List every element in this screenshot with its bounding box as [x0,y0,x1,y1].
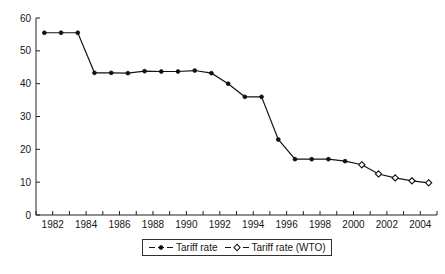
tariff-rate-line-chart: 0102030405060 19821984198619881990199219… [0,0,445,274]
series-lines [44,33,428,183]
x-tick-label: 1990 [175,219,198,230]
data-point-filled-circle [126,71,130,75]
data-point-open-diamond [409,178,415,184]
legend-entry-tariff-rate: Tariff rate [148,240,218,255]
series-line-tariff-rate [44,33,345,161]
x-tick-label: 1984 [75,219,98,230]
data-point-filled-circle [226,82,230,86]
data-point-open-diamond [392,175,398,181]
open-diamond-marker-icon [224,242,250,253]
data-point-filled-circle [276,138,280,142]
data-point-filled-circle [93,71,97,75]
x-tick-label: 2000 [342,219,365,230]
figure-container: 0102030405060 19821984198619881990199219… [0,0,445,274]
data-point-filled-circle [243,95,247,99]
x-tick-label: 1988 [142,219,165,230]
data-point-filled-circle [293,157,297,161]
data-point-filled-circle [76,31,80,35]
x-axis-tick-labels: 1982198419861988199019921994199619982000… [42,219,432,230]
axis-lines [36,18,437,215]
series-markers [42,31,431,186]
x-tick-label: 2002 [376,219,399,230]
data-point-filled-circle [109,71,113,75]
y-tick-label: 60 [20,13,32,24]
y-tick-label: 40 [20,78,32,89]
x-tick-label: 2004 [409,219,432,230]
x-tick-label: 1998 [309,219,332,230]
y-tick-label: 20 [20,144,32,155]
legend-label-tariff-rate-wto: Tariff rate (WTO) [252,240,326,255]
legend-entry-tariff-rate-wto: Tariff rate (WTO) [224,240,326,255]
x-axis-ticks [36,211,437,215]
y-axis-ticks [36,18,40,215]
data-point-filled-circle [143,69,147,73]
x-tick-label: 1986 [108,219,131,230]
data-point-filled-circle [193,69,197,73]
x-tick-label: 1982 [42,219,65,230]
filled-circle-marker-icon [148,242,174,253]
data-point-filled-circle [59,31,63,35]
y-tick-label: 0 [25,210,31,221]
data-point-filled-circle [159,70,163,74]
y-tick-label: 30 [20,111,32,122]
data-point-open-diamond [375,171,381,177]
data-point-filled-circle [310,157,314,161]
data-point-open-diamond [359,162,365,168]
data-point-filled-circle [210,71,214,75]
data-point-filled-circle [42,31,46,35]
x-tick-label: 1992 [209,219,232,230]
figure-caption [8,266,438,274]
data-point-filled-circle [260,95,264,99]
x-tick-label: 1994 [242,219,265,230]
y-tick-label: 50 [20,45,32,56]
x-tick-label: 1996 [276,219,299,230]
data-point-filled-circle [176,70,180,74]
y-axis-tick-labels: 0102030405060 [20,13,32,221]
y-tick-label: 10 [20,177,32,188]
data-point-filled-circle [343,159,347,163]
legend-label-tariff-rate: Tariff rate [176,240,218,255]
data-point-filled-circle [327,157,331,161]
data-point-open-diamond [426,180,432,186]
chart-legend: Tariff rate Tariff rate (WTO) [142,239,332,256]
